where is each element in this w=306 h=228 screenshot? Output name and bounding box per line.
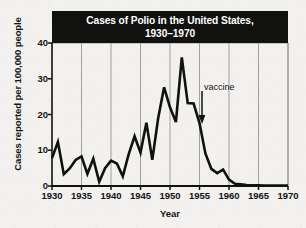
chart-figure: Cases reported per 100,000 people 40 30 … (0, 0, 306, 228)
chart-title-line2: 1930–1970 (145, 27, 195, 40)
gridlines (52, 43, 288, 186)
chart-title-banner: Cases of Polio in the United States, 193… (52, 11, 288, 43)
chart-title-line1: Cases of Polio in the United States, (86, 14, 253, 27)
vaccine-annotation-label: vaccine (204, 82, 235, 92)
